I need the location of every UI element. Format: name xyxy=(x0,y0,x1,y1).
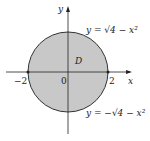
x-axis-arrow-icon xyxy=(126,70,132,74)
lower-curve-label: y = −√4 − x² xyxy=(85,108,146,118)
y-axis-label: y xyxy=(57,4,64,14)
x-axis-label: x xyxy=(128,76,133,86)
origin-label: 0 xyxy=(61,76,67,86)
point-right xyxy=(107,71,110,74)
tick-left-label: −2 xyxy=(14,76,27,86)
y-axis-arrow-icon xyxy=(66,6,70,12)
region-label: D xyxy=(74,56,82,66)
region-diagram: y x 0 −2 2 D y = √4 − x² y = −√4 − x² xyxy=(0,0,150,141)
upper-curve-label: y = √4 − x² xyxy=(85,25,138,35)
tick-right-label: 2 xyxy=(109,76,115,86)
point-left xyxy=(27,71,30,74)
